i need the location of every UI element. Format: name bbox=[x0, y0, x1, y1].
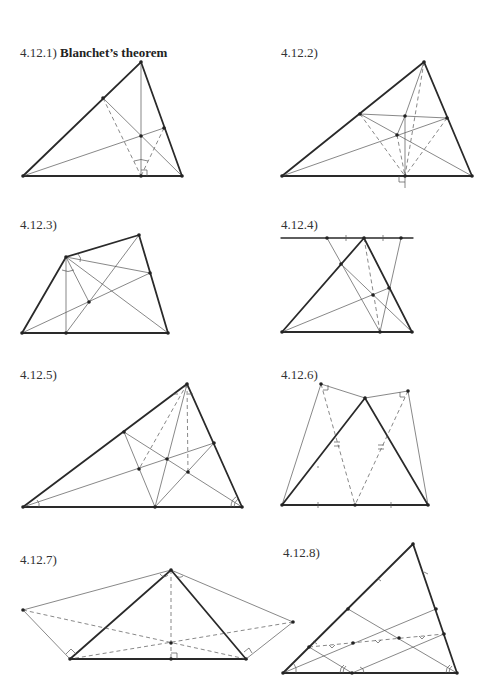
figure-4-12-5-diagram bbox=[21, 382, 244, 509]
figure-4-12-1-diagram bbox=[21, 60, 184, 178]
figure-4-12-8-diagram bbox=[281, 542, 459, 675]
figure-4-12-7-diagram bbox=[21, 568, 295, 661]
geometry-figures bbox=[0, 0, 501, 691]
figure-4-12-6-diagram bbox=[280, 382, 430, 508]
figure-4-12-2-diagram bbox=[280, 60, 474, 188]
figure-4-12-4-diagram bbox=[280, 235, 414, 334]
figure-4-12-3-diagram bbox=[20, 233, 170, 335]
